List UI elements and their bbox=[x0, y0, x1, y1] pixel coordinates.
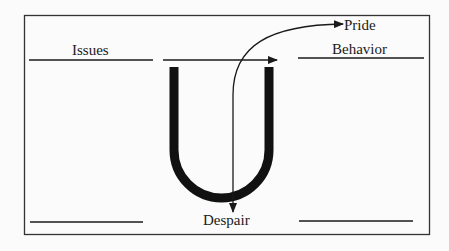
curved-arrow-to-pride bbox=[233, 24, 343, 140]
despair-label: Despair bbox=[203, 213, 250, 228]
u-curve-diagram: Issues Pride Behavior Despair bbox=[0, 0, 449, 251]
pride-label: Pride bbox=[344, 18, 376, 33]
u-curve-shape bbox=[174, 67, 269, 198]
issues-label: Issues bbox=[72, 43, 109, 58]
behavior-label: Behavior bbox=[332, 42, 387, 57]
